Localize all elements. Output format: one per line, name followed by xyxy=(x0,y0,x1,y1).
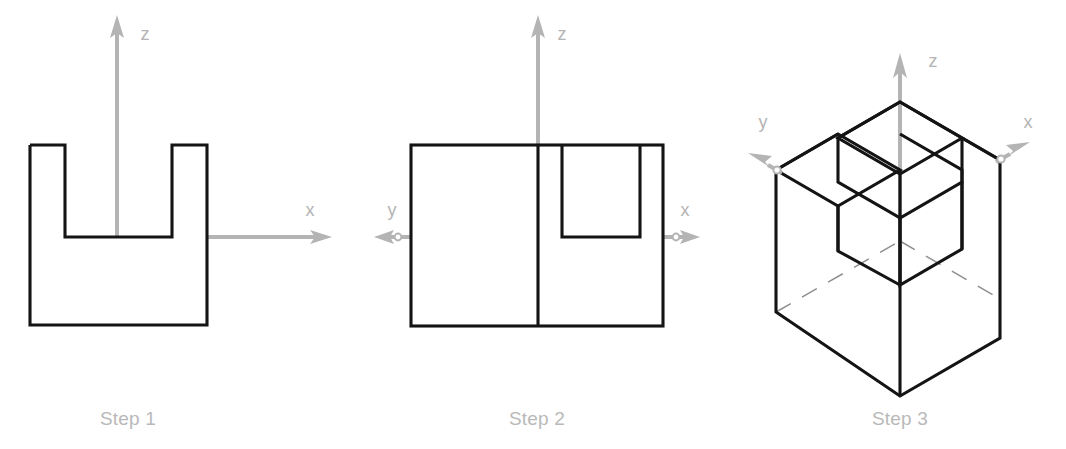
outer-shell-outline xyxy=(776,102,1000,396)
x-axis-label: x xyxy=(681,200,690,220)
channel-floor-and-back-wall xyxy=(900,138,962,218)
y-axis-origin-ring xyxy=(395,234,402,241)
step-3-y-axis: y xyxy=(748,112,782,174)
right-wall-top-outer-edge xyxy=(962,138,1000,160)
step-1-z-axis: z xyxy=(110,15,150,237)
z-axis-label: z xyxy=(929,51,938,71)
step-3-hidden-edges xyxy=(776,241,1000,312)
x-axis-label: x xyxy=(1024,112,1033,132)
y-axis-label: y xyxy=(759,112,768,132)
z-axis-label: z xyxy=(558,24,567,44)
x-axis-arrowhead xyxy=(1006,142,1030,157)
step-3-caption: Step 3 xyxy=(872,408,928,429)
step-1-x-axis: x xyxy=(207,200,332,244)
step-2-caption: Step 2 xyxy=(509,408,565,429)
y-axis-origin-ring xyxy=(773,166,780,173)
y-axis-label: y xyxy=(388,200,397,220)
step-2-inner-notch xyxy=(562,145,640,237)
x-axis-origin-ring xyxy=(997,155,1004,162)
step-3-group: z xyxy=(748,51,1033,429)
step-1-group: z x Step 1 xyxy=(30,15,332,429)
step-2-z-axis: z xyxy=(531,15,567,145)
y-axis-arrowhead xyxy=(748,153,772,168)
step-2-y-axis: y xyxy=(374,200,411,244)
step-2-x-axis: x xyxy=(663,200,700,244)
hidden-edge-back-bottom-right xyxy=(900,241,1000,299)
step-1-caption: Step 1 xyxy=(100,408,156,429)
step-3-x-axis: x xyxy=(996,112,1033,163)
z-axis-label: z xyxy=(141,24,150,44)
step-2-group: z y x Step 2 xyxy=(374,15,700,429)
x-axis-label: x xyxy=(306,200,315,220)
diagram-canvas: z x Step 1 z y x xyxy=(0,0,1066,449)
left-wall-top-outer-edge xyxy=(776,134,838,170)
x-axis-origin-ring xyxy=(673,234,680,241)
step-3-solid xyxy=(776,102,1000,396)
